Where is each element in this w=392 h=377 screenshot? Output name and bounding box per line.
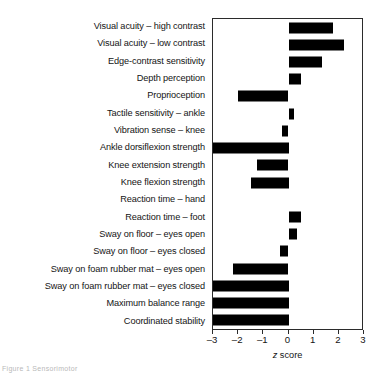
x-tick-label: 3 [360, 335, 365, 345]
bar-row [213, 174, 362, 191]
category-label-column: Visual acuity – high contrast Visual acu… [0, 18, 210, 330]
category-label: Knee extension strength [0, 157, 210, 174]
bar [213, 280, 289, 291]
bar-row [213, 88, 362, 105]
bar [289, 108, 294, 119]
bar [233, 263, 288, 274]
bar [213, 315, 289, 326]
bar-row [213, 191, 362, 208]
x-axis-tick-labels: –3–2–10123 [200, 335, 380, 348]
category-label: Reaction time – foot [0, 209, 210, 226]
x-tick-label: 0 [285, 335, 290, 345]
caption-fragment: Figure 1 Sensorimotor [2, 365, 78, 372]
x-axis-title-rest: score [277, 350, 302, 360]
bar-row [213, 140, 362, 157]
category-label: Coordinated stability [0, 313, 210, 330]
bar [213, 298, 289, 309]
bar [289, 22, 333, 33]
bar-row [213, 71, 362, 88]
bar-row [213, 295, 362, 312]
x-tick-label: 1 [310, 335, 315, 345]
category-label: Visual acuity – high contrast [0, 18, 210, 35]
bar [257, 160, 288, 171]
bar [289, 74, 302, 85]
bar-row [213, 157, 362, 174]
category-label: Tactile sensitivity – ankle [0, 105, 210, 122]
bar [289, 39, 344, 50]
category-label: Depth perception [0, 70, 210, 87]
category-label: Sway on floor – eyes closed [0, 243, 210, 260]
bar-row [213, 105, 362, 122]
x-tick-label: –3 [207, 335, 218, 345]
category-label: Knee flexion strength [0, 174, 210, 191]
bar-row [213, 122, 362, 139]
category-label: Reaction time – hand [0, 191, 210, 208]
category-label: Ankle dorsiflexion strength [0, 139, 210, 156]
category-label: Proprioception [0, 87, 210, 104]
category-label: Vibration sense – knee [0, 122, 210, 139]
category-label: Edge-contrast sensitivity [0, 53, 210, 70]
category-label: Maximum balance range [0, 295, 210, 312]
bar-row [213, 208, 362, 225]
bar-row [213, 226, 362, 243]
bar-row [213, 260, 362, 277]
bar-row [213, 277, 362, 294]
bar-row [213, 312, 362, 329]
bar [282, 125, 288, 136]
bar [251, 177, 289, 188]
category-label: Sway on foam rubber mat – eyes closed [0, 278, 210, 295]
bar [289, 57, 323, 68]
bar [238, 91, 288, 102]
category-label: Sway on foam rubber mat – eyes open [0, 261, 210, 278]
category-label: Visual acuity – low contrast [0, 35, 210, 52]
x-tick-label: 2 [335, 335, 340, 345]
x-tick-label: –1 [257, 335, 268, 345]
plot-area [212, 18, 363, 330]
bar [280, 246, 289, 257]
bar-chart-figure: Visual acuity – high contrast Visual acu… [0, 0, 392, 377]
bar-row [213, 19, 362, 36]
bar-series [213, 19, 362, 329]
x-tick-label: –2 [232, 335, 243, 345]
bar-row [213, 53, 362, 70]
bar [289, 212, 302, 223]
category-label: Sway on floor – eyes open [0, 226, 210, 243]
bar-row [213, 243, 362, 260]
bar [289, 229, 298, 240]
bar-row [213, 36, 362, 53]
bar [213, 143, 289, 154]
x-axis-title: z score [212, 350, 363, 360]
